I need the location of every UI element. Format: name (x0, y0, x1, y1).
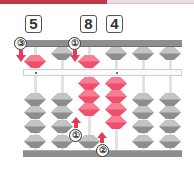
earth-bead-red[interactable] (105, 103, 127, 116)
abacus-frame-top (23, 40, 182, 47)
earth-bead-red[interactable] (105, 90, 127, 103)
earth-bead-grey[interactable] (132, 135, 154, 148)
heaven-bead-grey[interactable] (105, 47, 127, 60)
step-marker-1: ① (69, 129, 82, 142)
arrow-up-icon (97, 132, 107, 143)
earth-bead-grey[interactable] (51, 93, 73, 106)
heaven-bead-red[interactable] (24, 55, 46, 68)
earth-bead-grey[interactable] (24, 120, 46, 133)
heaven-bead-grey[interactable] (132, 47, 154, 60)
earth-bead-grey[interactable] (24, 93, 46, 106)
digit-box-8: 8 (80, 15, 97, 33)
earth-bead-grey[interactable] (132, 93, 154, 106)
heaven-bead-red[interactable] (78, 55, 100, 68)
arrow-down-icon (70, 50, 80, 62)
arrow-down-icon (16, 50, 26, 62)
earth-bead-red[interactable] (78, 90, 100, 103)
header-bar-light (107, 0, 194, 4)
step-marker-1: ① (68, 37, 81, 50)
earth-bead-red[interactable] (78, 103, 100, 116)
arrow-up-icon (71, 117, 81, 128)
step-marker-2: ② (96, 144, 109, 157)
step-marker-3: ③ (14, 37, 27, 50)
header-bar-red (0, 0, 107, 4)
digit-box-5: 5 (25, 15, 42, 33)
earth-bead-red[interactable] (105, 77, 127, 90)
earth-bead-grey[interactable] (51, 106, 73, 119)
abacus-beam (23, 69, 182, 76)
heaven-bead-grey[interactable] (159, 47, 181, 60)
earth-bead-red[interactable] (105, 116, 127, 129)
digit-box-4: 4 (106, 15, 123, 33)
earth-bead-red[interactable] (78, 77, 100, 90)
unit-dot (116, 72, 118, 74)
earth-bead-grey[interactable] (132, 106, 154, 119)
earth-bead-grey[interactable] (159, 93, 181, 106)
earth-bead-grey[interactable] (159, 106, 181, 119)
earth-bead-grey[interactable] (159, 135, 181, 148)
earth-bead-grey[interactable] (24, 106, 46, 119)
earth-bead-grey[interactable] (159, 120, 181, 133)
unit-dot (35, 72, 37, 74)
earth-bead-grey[interactable] (24, 135, 46, 148)
earth-bead-grey[interactable] (132, 120, 154, 133)
